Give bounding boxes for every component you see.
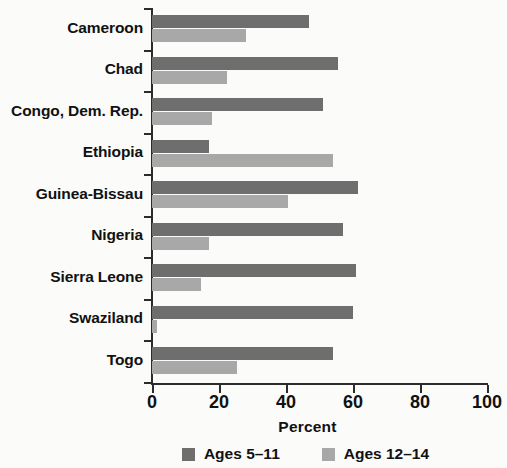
- legend-label-ages-5-11: Ages 5–11: [204, 445, 280, 463]
- bar-ages-12-14: [152, 112, 212, 125]
- category-label: Sierra Leone: [0, 268, 143, 286]
- legend-item-ages-12-14[interactable]: Ages 12–14: [322, 445, 429, 463]
- x-axis-tick-label: 100: [472, 392, 502, 413]
- bar-group: [152, 257, 487, 299]
- bar-ages-12-14: [152, 154, 333, 167]
- category-label: Congo, Dem. Rep.: [0, 102, 143, 120]
- bar-ages-12-14: [152, 237, 209, 250]
- bar-ages-5-11: [152, 347, 333, 360]
- bar-ages-5-11: [152, 15, 309, 28]
- category-label: Togo: [0, 351, 143, 369]
- x-axis-title-text: Percent: [278, 418, 336, 435]
- bar-ages-5-11: [152, 181, 358, 194]
- bar-ages-5-11: [152, 223, 343, 236]
- bar-ages-5-11: [152, 264, 356, 277]
- category-label: Chad: [0, 60, 143, 78]
- bar-group: [152, 174, 487, 216]
- category-label: Swaziland: [0, 309, 143, 327]
- legend-swatch-light: [322, 448, 335, 461]
- legend: Ages 5–11 Ages 12–14: [0, 445, 507, 463]
- category-label: Guinea-Bissau: [0, 185, 143, 203]
- bar-ages-5-11: [152, 57, 338, 70]
- y-axis-tick: [144, 50, 152, 52]
- y-axis-tick: [144, 174, 152, 176]
- bar-ages-12-14: [152, 71, 227, 84]
- bar-group: [152, 50, 487, 92]
- x-axis-tick-label: 80: [410, 392, 430, 413]
- bar-chart: CameroonChadCongo, Dem. Rep.EthiopiaGuin…: [0, 0, 507, 468]
- x-axis-title: Percent: [0, 418, 507, 436]
- bar-group: [152, 133, 487, 175]
- y-axis-tick: [144, 257, 152, 259]
- x-axis-tick-label: 60: [343, 392, 363, 413]
- bar-ages-12-14: [152, 195, 288, 208]
- category-label: Ethiopia: [0, 143, 143, 161]
- bar-ages-12-14: [152, 278, 201, 291]
- y-axis-tick: [144, 299, 152, 301]
- bar-group: [152, 216, 487, 258]
- bar-group: [152, 299, 487, 341]
- bar-ages-5-11: [152, 98, 323, 111]
- plot-area: [152, 8, 487, 383]
- y-axis-tick: [144, 91, 152, 93]
- bar-group: [152, 340, 487, 382]
- legend-label-ages-12-14: Ages 12–14: [344, 445, 429, 463]
- legend-item-ages-5-11[interactable]: Ages 5–11: [182, 445, 280, 463]
- legend-swatch-dark: [182, 448, 195, 461]
- y-axis-tick: [144, 340, 152, 342]
- bar-group: [152, 8, 487, 50]
- y-axis-tick: [144, 382, 152, 384]
- bar-ages-12-14: [152, 320, 157, 333]
- category-label: Cameroon: [0, 19, 143, 37]
- category-label: Nigeria: [0, 226, 143, 244]
- x-axis-tick-label: 40: [276, 392, 296, 413]
- x-axis-tick-label: 20: [209, 392, 229, 413]
- x-axis-line: [151, 383, 488, 385]
- bar-ages-12-14: [152, 361, 237, 374]
- bar-ages-12-14: [152, 29, 246, 42]
- bar-ages-5-11: [152, 140, 209, 153]
- bar-group: [152, 91, 487, 133]
- y-axis-tick: [144, 8, 152, 10]
- y-axis-tick: [144, 216, 152, 218]
- y-axis-tick: [144, 133, 152, 135]
- x-axis-tick-label: 0: [147, 392, 157, 413]
- bar-ages-5-11: [152, 306, 353, 319]
